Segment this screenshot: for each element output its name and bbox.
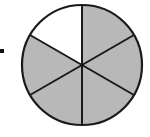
fraction-circle-diagram: [0, 0, 150, 137]
